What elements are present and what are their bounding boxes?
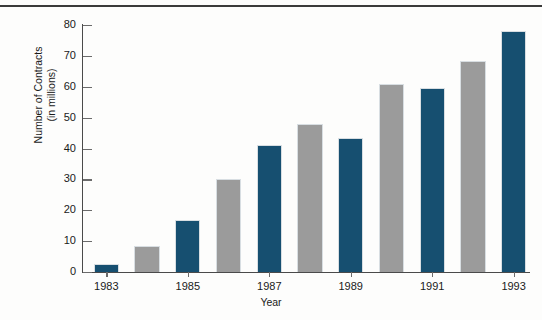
x-tick-mark [514,272,515,277]
bar-1990 [379,84,404,272]
x-tick-label: 1983 [94,280,118,292]
bar-1992 [460,61,485,272]
bar-1987 [257,145,282,272]
x-axis-title: Year [0,296,542,308]
y-tick-label: 70 [64,49,76,61]
x-tick-mark [269,272,270,277]
bar-1991 [420,88,445,272]
x-tick-mark [432,272,433,277]
y-axis-title-line1: Number of Contracts [32,47,45,144]
x-tick-mark [106,272,107,277]
bar-1989 [338,138,363,272]
top-rule-divider [0,5,542,7]
y-tick-mark [83,118,92,119]
y-tick-label: 20 [64,203,76,215]
y-tick-label: 0 [70,265,76,277]
bar-1983 [94,264,119,272]
x-tick-label: 1993 [501,280,525,292]
y-tick-label: 80 [64,18,76,30]
bar-1984 [134,246,159,272]
y-tick-label: 50 [64,111,76,123]
plot-area: 01020304050607080 [82,25,530,272]
y-axis-title: Number of Contracts (in millions) [25,0,65,195]
bar-chart-figure: Number of Contracts (in millions) 010203… [0,0,542,320]
bar-1988 [297,124,322,272]
y-tick-mark [83,241,92,242]
y-axis-title-line2: (in millions) [45,68,58,121]
bar-1985 [175,220,200,272]
x-tick-mark [351,272,352,277]
x-tick-label: 1991 [420,280,444,292]
y-tick-label: 60 [64,80,76,92]
bar-1993 [501,31,526,272]
x-tick-label: 1989 [338,280,362,292]
y-tick-label: 30 [64,172,76,184]
x-tick-mark [188,272,189,277]
y-tick-label: 40 [64,142,76,154]
x-tick-label: 1985 [176,280,200,292]
y-tick-mark [83,56,92,57]
bar-1986 [216,179,241,272]
y-tick-mark [83,179,92,180]
y-tick-label: 10 [64,234,76,246]
x-tick-label: 1987 [257,280,281,292]
y-tick-mark [83,210,92,211]
y-tick-mark [83,25,92,26]
y-tick-mark [83,87,92,88]
y-tick-mark [83,149,92,150]
